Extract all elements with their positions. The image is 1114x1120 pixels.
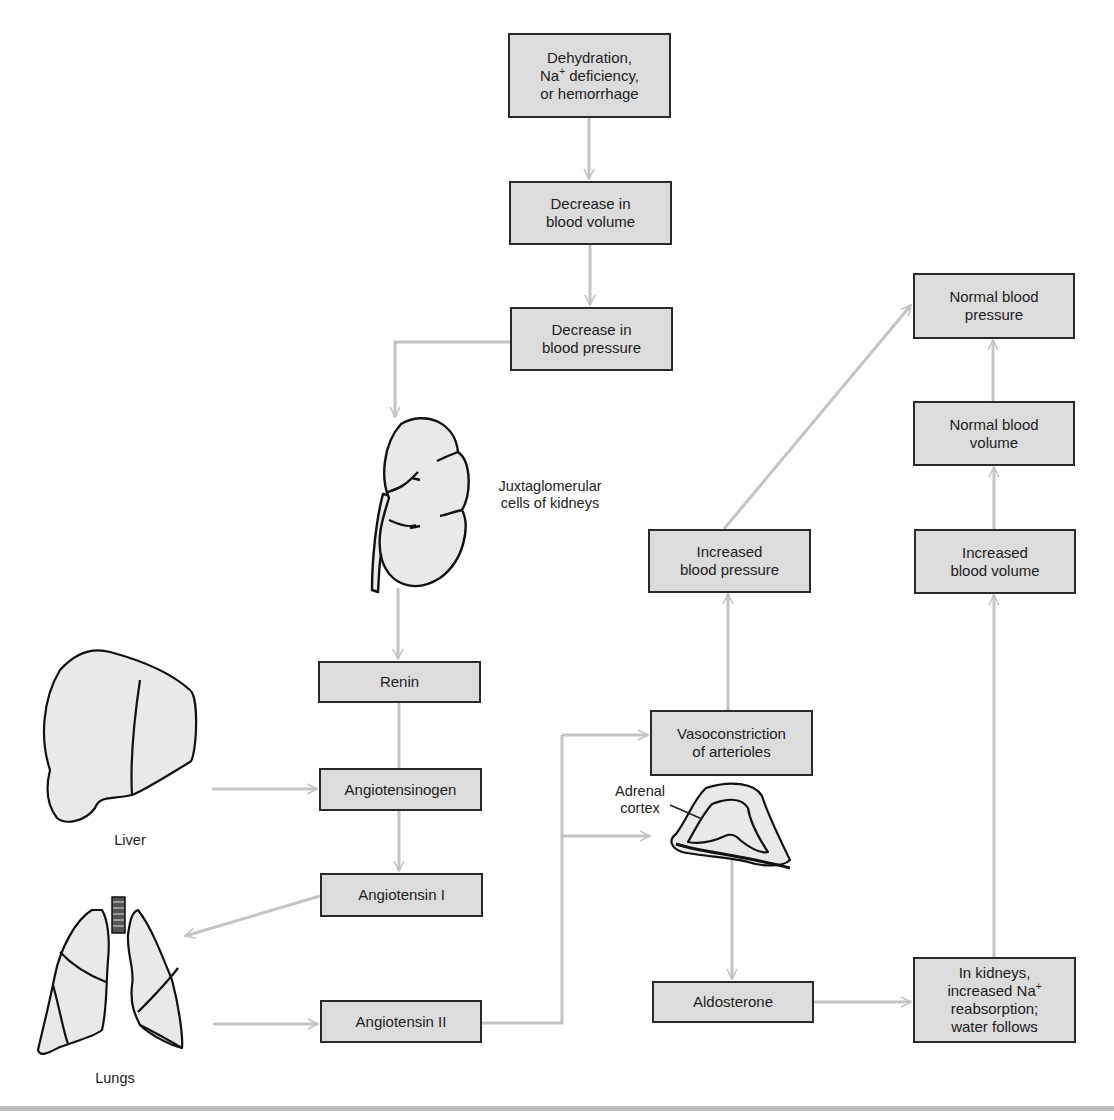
node-text: reabsorption; xyxy=(951,1000,1039,1017)
node-text: Dehydration, xyxy=(547,49,632,66)
node-text: Angiotensinogen xyxy=(345,781,457,799)
node-text: water follows xyxy=(951,1018,1038,1035)
node-aldosterone: Aldosterone xyxy=(652,981,814,1023)
node-text: Angiotensin I xyxy=(358,886,445,904)
lungs-icon xyxy=(38,897,182,1054)
node-text: Normal blood volume xyxy=(949,416,1038,452)
node-text: deficiency, xyxy=(565,67,639,84)
node-text: Increased blood pressure xyxy=(680,543,779,579)
node-text: Decrease in blood volume xyxy=(546,195,635,231)
label-adrenal-cortex: Adrenal cortex xyxy=(605,783,675,817)
node-increased-blood-pressure: Increased blood pressure xyxy=(648,529,811,593)
node-text: Na xyxy=(540,67,559,84)
node-normal-blood-pressure: Normal blood pressure xyxy=(913,273,1075,339)
node-text: Aldosterone xyxy=(693,993,773,1011)
label-kidney: Juxtaglomerular cells of kidneys xyxy=(480,478,620,512)
node-text: Angiotensin II xyxy=(356,1013,447,1031)
node-angiotensin-2: Angiotensin II xyxy=(320,1000,482,1043)
node-angiotensin-1: Angiotensin I xyxy=(320,873,483,917)
bottom-divider xyxy=(0,1106,1114,1111)
node-normal-blood-volume: Normal blood volume xyxy=(913,401,1075,466)
node-decrease-blood-volume: Decrease in blood volume xyxy=(509,181,672,245)
node-text: increased Na xyxy=(947,982,1035,999)
node-kidney-reabsorption: In kidneys, increased Na+ reabsorption; … xyxy=(913,957,1076,1043)
node-text: Decrease in blood pressure xyxy=(542,321,641,357)
node-renin: Renin xyxy=(318,661,481,703)
liver-icon xyxy=(44,650,196,821)
adrenal-cortex-icon xyxy=(671,784,790,868)
node-angiotensinogen: Angiotensinogen xyxy=(319,768,482,811)
node-increased-blood-volume: Increased blood volume xyxy=(914,529,1076,594)
label-lungs: Lungs xyxy=(75,1070,155,1087)
node-text: In kidneys, xyxy=(959,964,1031,981)
node-text: Vasoconstriction of arterioles xyxy=(677,725,786,761)
node-vasoconstriction: Vasoconstriction of arterioles xyxy=(650,710,813,776)
node-text: Normal blood pressure xyxy=(949,288,1038,324)
kidney-icon xyxy=(372,418,469,592)
node-text: + xyxy=(1036,981,1042,992)
node-text: or hemorrhage xyxy=(540,85,638,102)
node-text: Increased blood volume xyxy=(950,544,1039,580)
node-dehydration: Dehydration, Na+ deficiency, or hemorrha… xyxy=(508,33,671,118)
node-decrease-blood-pressure: Decrease in blood pressure xyxy=(510,307,673,371)
node-text: Renin xyxy=(380,673,419,691)
label-liver: Liver xyxy=(90,832,170,849)
